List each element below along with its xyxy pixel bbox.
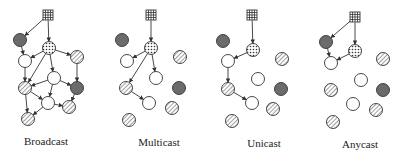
hatched-node-icon xyxy=(19,82,32,95)
edge-arrow xyxy=(25,19,44,36)
white-node-icon xyxy=(252,73,265,86)
white-node-icon xyxy=(150,72,163,85)
edge-arrow xyxy=(26,94,28,112)
dark-node-icon xyxy=(217,35,230,48)
edge-arrow xyxy=(60,81,71,86)
panel-label-broadcast: Broadcast xyxy=(24,135,68,147)
hatched-node-icon xyxy=(222,83,235,96)
white-node-icon xyxy=(48,72,61,85)
routing-diagram xyxy=(0,0,404,156)
nodes-layer xyxy=(14,10,390,129)
hatched-node-icon xyxy=(166,102,179,115)
hatched-node-icon xyxy=(123,114,136,127)
edge-arrow xyxy=(234,92,247,99)
edge-arrow xyxy=(31,51,44,58)
white-node-icon xyxy=(42,97,55,110)
white-node-icon xyxy=(355,74,368,87)
dotted-node-icon xyxy=(247,44,260,57)
dark-node-icon xyxy=(275,83,288,96)
edge-arrow xyxy=(55,50,71,55)
white-node-icon xyxy=(143,97,156,110)
edge-arrow xyxy=(48,20,49,41)
source-node-icon xyxy=(247,10,257,20)
dotted-node-icon xyxy=(145,42,158,55)
dark-node-icon xyxy=(173,82,186,95)
panel-label-anycast: Anycast xyxy=(342,138,378,150)
dark-node-icon xyxy=(71,82,84,95)
edge-arrow xyxy=(337,54,349,60)
white-node-icon xyxy=(325,57,338,70)
edge-arrow xyxy=(30,92,42,100)
edge-arrow xyxy=(72,94,75,101)
dotted-node-icon xyxy=(43,42,56,55)
edge-arrow xyxy=(252,20,253,43)
source-node-icon xyxy=(146,10,156,20)
edges-layer xyxy=(22,19,355,115)
hatched-node-icon xyxy=(226,115,239,128)
edge-arrow xyxy=(22,46,24,54)
edge-arrow xyxy=(328,48,330,56)
dotted-node-icon xyxy=(349,45,362,58)
edge-arrow xyxy=(152,54,155,71)
hatched-node-icon xyxy=(377,53,390,66)
edge-arrow xyxy=(234,53,247,59)
edge-arrow xyxy=(133,51,146,58)
dark-node-icon xyxy=(116,34,129,47)
hatched-node-icon xyxy=(327,116,340,129)
dark-node-icon xyxy=(320,36,333,49)
edge-arrow xyxy=(31,80,48,86)
edge-arrow xyxy=(50,54,53,71)
source-node-icon xyxy=(43,10,53,20)
hatched-node-icon xyxy=(22,113,35,126)
edge-arrow xyxy=(54,104,62,106)
edge-arrow xyxy=(331,21,351,38)
hatched-node-icon xyxy=(174,51,187,64)
dark-node-icon xyxy=(377,84,390,97)
white-node-icon xyxy=(246,97,259,110)
edge-arrow xyxy=(131,92,143,100)
hatched-node-icon xyxy=(71,51,84,64)
hatched-node-icon xyxy=(120,82,133,95)
white-node-icon xyxy=(347,98,360,111)
hatched-node-icon xyxy=(267,103,280,116)
panel-label-unicast: Unicast xyxy=(247,137,281,149)
white-node-icon xyxy=(19,55,32,68)
panel-label-multicast: Multicast xyxy=(138,136,180,148)
edge-arrow xyxy=(33,107,43,115)
source-node-icon xyxy=(350,12,360,22)
hatched-node-icon xyxy=(63,101,76,114)
white-node-icon xyxy=(121,55,134,68)
dark-node-icon xyxy=(14,34,27,47)
hatched-node-icon xyxy=(276,53,289,66)
white-node-icon xyxy=(222,55,235,68)
hatched-node-icon xyxy=(325,84,338,97)
edge-arrow xyxy=(50,84,53,96)
hatched-node-icon xyxy=(370,104,383,117)
